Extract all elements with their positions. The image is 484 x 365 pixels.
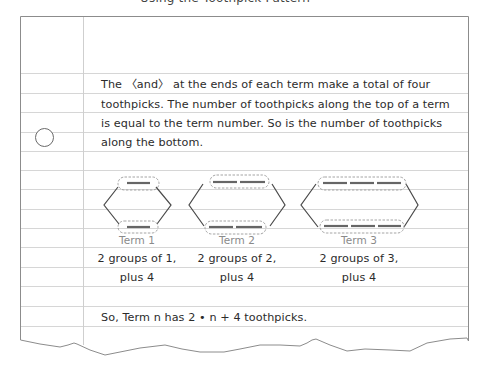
term-3-label: Term 3 — [341, 233, 377, 247]
notebook-page: Using the Toothpick Pattern The 〈and〉 at… — [0, 0, 484, 365]
binder-hole-icon — [35, 128, 54, 147]
term-2-caption-line-2: plus 4 — [220, 271, 254, 285]
term-2-label: Term 2 — [219, 233, 255, 247]
term-2-figure — [189, 175, 285, 234]
paragraph-line-1: The 〈and〉 at the ends of each term make … — [101, 78, 430, 92]
term-3-figure — [301, 177, 418, 233]
page-border — [21, 17, 469, 356]
term-1-label: Term 1 — [119, 233, 155, 247]
term-2-caption-line-1: 2 groups of 2, — [198, 252, 277, 266]
conclusion-text: So, Term n has 2 • n + 4 toothpicks. — [101, 311, 307, 325]
term-3-caption-line-1: 2 groups of 3, — [320, 252, 399, 266]
paragraph-line-2: toothpicks. The number of toothpicks alo… — [101, 98, 450, 112]
term-1-caption-line-2: plus 4 — [120, 271, 154, 285]
cutoff-heading: Using the Toothpick Pattern — [140, 0, 310, 5]
term-1-caption-line-1: 2 groups of 1, — [98, 252, 177, 266]
term-1-figure — [104, 177, 171, 233]
paragraph-line-4: along the bottom. — [101, 136, 203, 150]
term-3-caption-line-2: plus 4 — [342, 271, 376, 285]
paragraph-line-3: is equal to the term number. So is the n… — [101, 117, 442, 131]
